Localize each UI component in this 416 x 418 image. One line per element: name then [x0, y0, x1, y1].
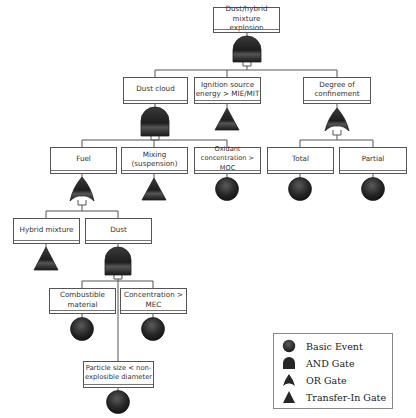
- basic-event-icon: [282, 339, 296, 353]
- legend-label: Transfer-In Gate: [306, 392, 386, 403]
- transfer-in-gate-icon: [282, 390, 296, 404]
- event-label: Hybrid mixture: [20, 225, 74, 235]
- event-box-oxidant-concentration: Oxidant concentration > MOC: [194, 147, 261, 174]
- event-box-fuel: Fuel: [50, 147, 117, 174]
- top-event-box: Dust/hybrid mixture explosion: [213, 7, 280, 33]
- legend-item-transfer-in-gate: Transfer-In Gate: [282, 389, 386, 405]
- or-gate-icon: [282, 373, 296, 387]
- event-label-line1: Particle size < non-: [85, 364, 152, 374]
- event-box-combustible-material: Combustible material: [49, 288, 116, 314]
- event-label-line2: material: [60, 300, 105, 310]
- legend-label: OR Gate: [306, 375, 347, 386]
- basic-event-icon: [71, 318, 94, 341]
- transfer-in-gate-icon: [142, 178, 166, 200]
- legend-label: Basic Event: [306, 341, 363, 352]
- event-label-line2: (suspension): [132, 159, 178, 169]
- event-label-line2: concentration > MOC: [195, 154, 260, 173]
- and-gate-icon: [233, 36, 261, 62]
- event-box-concentration-mec: Concentration > MEC: [120, 288, 187, 314]
- basic-event-icon: [362, 178, 385, 201]
- top-event-label-line1: Dust/hybrid mixture: [214, 4, 279, 23]
- event-label-line1: Combustible: [60, 290, 105, 300]
- event-box-particle-size: Particle size < non- explosible diameter: [83, 361, 154, 388]
- basic-event-icon: [289, 178, 312, 201]
- legend-label: AND Gate: [306, 358, 355, 369]
- event-box-dust-cloud: Dust cloud: [123, 77, 188, 104]
- event-label-line1: Degree of: [314, 80, 359, 90]
- event-label-line2: confinement: [314, 89, 359, 99]
- event-label: Dust: [110, 225, 127, 235]
- event-label-line1: Concentration >: [124, 290, 183, 300]
- basic-event-icon: [107, 391, 130, 414]
- or-gate-icon: [325, 108, 349, 131]
- and-gate-icon: [282, 356, 296, 370]
- event-label-line1: Ignition source: [196, 80, 260, 90]
- basic-event-icon: [216, 178, 239, 201]
- fault-tree-diagram: Dust/hybrid mixture explosion Dust cloud…: [0, 0, 416, 418]
- legend-item-and-gate: AND Gate: [282, 355, 355, 371]
- event-box-dust: Dust: [85, 218, 152, 244]
- event-box-degree-of-confinement: Degree of confinement: [303, 77, 371, 104]
- event-label-line2: energy > MIE/MIT: [196, 89, 260, 99]
- event-box-hybrid-mixture: Hybrid mixture: [13, 218, 80, 244]
- event-label: Partial: [362, 154, 385, 164]
- event-box-mixing: Mixing (suspension): [121, 147, 188, 174]
- top-event-label-line2: explosion: [214, 23, 279, 33]
- event-box-total: Total: [267, 147, 334, 174]
- event-label-line2: MEC: [124, 300, 183, 310]
- and-gate-icon: [141, 107, 169, 136]
- event-label-line1: Mixing: [132, 150, 178, 160]
- basic-event-icon: [142, 318, 165, 341]
- transfer-in-gate-icon: [34, 247, 58, 270]
- and-gate-icon: [105, 247, 131, 275]
- legend-item-basic-event: Basic Event: [282, 338, 363, 354]
- event-label-line1: Oxidant: [195, 145, 260, 155]
- event-label-line2: explosible diameter: [85, 373, 152, 383]
- event-box-partial: Partial: [339, 147, 407, 174]
- event-label: Fuel: [76, 154, 91, 164]
- or-gate-icon: [70, 177, 94, 201]
- event-label: Total: [292, 154, 309, 164]
- event-box-ignition-source: Ignition source energy > MIE/MIT: [194, 77, 261, 104]
- event-label: Dust cloud: [136, 84, 174, 94]
- transfer-in-gate-icon: [215, 108, 239, 130]
- legend: Basic Event AND Gate OR Gate Transfer-In…: [273, 333, 393, 409]
- legend-item-or-gate: OR Gate: [282, 372, 347, 388]
